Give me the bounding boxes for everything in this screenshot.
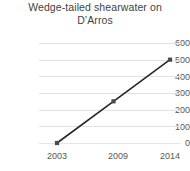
gridline-200 bbox=[39, 110, 181, 111]
chart-title-line-2: D’Arros bbox=[8, 14, 182, 27]
gridline-400 bbox=[39, 76, 181, 77]
x-axis-label-2009: 2009 bbox=[91, 152, 145, 161]
x-axis-label-2014: 2014 bbox=[143, 152, 190, 161]
gridline-500 bbox=[39, 60, 181, 61]
gridline-0 bbox=[39, 143, 181, 144]
gridline-100 bbox=[39, 126, 181, 127]
gridline-600 bbox=[39, 43, 181, 44]
plot-area bbox=[44, 43, 181, 143]
chart-title: Wedge-tailed shearwater on D’Arros bbox=[8, 1, 182, 27]
gridline-300 bbox=[39, 93, 181, 94]
x-axis-label-2003: 2003 bbox=[30, 152, 84, 161]
chart-container: Wedge-tailed shearwater on D’Arros 600 5… bbox=[0, 0, 190, 171]
chart-title-line-1: Wedge-tailed shearwater on bbox=[28, 1, 162, 13]
